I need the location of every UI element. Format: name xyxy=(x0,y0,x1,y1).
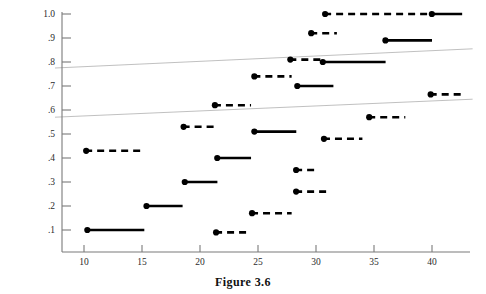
y-tick-label: .7 xyxy=(48,81,55,91)
interval-segment xyxy=(181,124,219,130)
y-tick-label: .9 xyxy=(48,33,55,43)
x-tick-label: 15 xyxy=(137,257,147,267)
x-tick-label: 10 xyxy=(79,257,89,267)
trend-line-lower-band xyxy=(55,99,473,117)
interval-segment xyxy=(428,91,465,97)
interval-left-endpoint-dot xyxy=(249,210,255,216)
x-tick-label: 30 xyxy=(311,257,321,267)
interval-segment xyxy=(429,11,462,17)
interval-segment xyxy=(382,37,432,43)
trend-line-upper-band xyxy=(55,49,473,68)
interval-segment xyxy=(293,189,328,195)
interval-left-endpoint-dot xyxy=(322,11,328,17)
y-tick-label: .5 xyxy=(48,129,55,139)
interval-segment xyxy=(308,30,337,36)
interval-segment xyxy=(212,102,251,108)
interval-left-endpoint-dot xyxy=(321,136,327,142)
interval-segments-layer xyxy=(83,11,464,236)
y-tick-label: .4 xyxy=(48,153,55,163)
interval-segment xyxy=(293,167,316,173)
interval-segment xyxy=(366,114,405,120)
interval-left-endpoint-dot xyxy=(293,189,299,195)
interval-chart: .1.2.3.4.5.6.7.8.91.0 10152025303540 xyxy=(0,0,486,294)
interval-left-endpoint-dot xyxy=(428,91,434,97)
interval-left-endpoint-dot xyxy=(293,167,299,173)
trend-lines-layer xyxy=(55,49,473,117)
interval-segment xyxy=(249,210,292,216)
interval-left-endpoint-dot xyxy=(294,83,300,89)
figure-caption: Figure 3.6 xyxy=(0,275,486,290)
interval-segment xyxy=(213,229,251,235)
interval-left-endpoint-dot xyxy=(429,11,435,17)
interval-segment xyxy=(84,227,144,233)
y-tick-label: .2 xyxy=(48,201,55,211)
interval-left-endpoint-dot xyxy=(143,203,149,209)
figure-container: .1.2.3.4.5.6.7.8.91.0 10152025303540 Fig… xyxy=(0,0,486,294)
interval-segment xyxy=(321,136,363,142)
interval-left-endpoint-dot xyxy=(212,102,218,108)
interval-segment xyxy=(294,83,333,89)
interval-left-endpoint-dot xyxy=(308,30,314,36)
interval-left-endpoint-dot xyxy=(213,229,219,235)
y-tick-label: .6 xyxy=(48,105,55,115)
interval-left-endpoint-dot xyxy=(83,148,89,154)
interval-left-endpoint-dot xyxy=(366,114,372,120)
x-tick-label: 20 xyxy=(195,257,205,267)
x-tick-labels: 10152025303540 xyxy=(79,257,437,267)
interval-left-endpoint-dot xyxy=(214,155,220,161)
x-tick-label: 35 xyxy=(369,257,379,267)
interval-left-endpoint-dot xyxy=(182,179,188,185)
interval-segment xyxy=(251,129,296,135)
interval-left-endpoint-dot xyxy=(251,73,257,79)
y-tick-label: .3 xyxy=(48,177,55,187)
interval-left-endpoint-dot xyxy=(84,227,90,233)
interval-segment xyxy=(214,155,251,161)
y-tick-label: .1 xyxy=(48,225,55,235)
interval-segment xyxy=(287,57,320,63)
x-tick-label: 40 xyxy=(427,257,437,267)
y-tick-label: 1.0 xyxy=(43,9,55,19)
x-tick-label: 25 xyxy=(253,257,263,267)
interval-segment xyxy=(320,59,386,65)
y-tick-labels: .1.2.3.4.5.6.7.8.91.0 xyxy=(43,9,55,235)
interval-left-endpoint-dot xyxy=(320,59,326,65)
interval-left-endpoint-dot xyxy=(287,57,293,63)
interval-segment xyxy=(83,148,143,154)
interval-left-endpoint-dot xyxy=(382,37,388,43)
interval-segment xyxy=(182,179,218,185)
interval-left-endpoint-dot xyxy=(251,129,257,135)
interval-segment xyxy=(251,73,291,79)
y-tick-label: .8 xyxy=(48,57,55,67)
interval-segment xyxy=(143,203,182,209)
interval-segment xyxy=(322,11,432,17)
interval-left-endpoint-dot xyxy=(181,124,187,130)
